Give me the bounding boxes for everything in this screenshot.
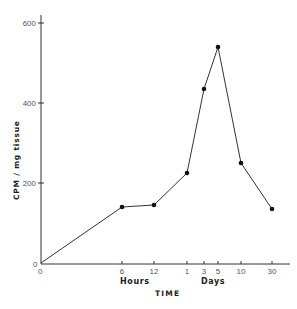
data-point [120,205,125,210]
data-point [202,87,207,92]
x-tick-label: 30 [268,267,277,276]
x-origin-label: 0 [38,267,43,276]
line-chart: 200400600 6121351030 0 0 Hours Days TIME… [0,0,297,309]
x-tick-label: 5 [216,267,221,276]
data-point [216,45,221,50]
hours-label: Hours [120,277,150,286]
days-label: Days [201,277,225,286]
data-points [120,45,275,212]
y-tick-label: 600 [23,19,37,28]
data-point [270,207,275,212]
data-point [185,171,190,176]
y-tick-label: 400 [23,99,37,108]
data-line [41,47,272,263]
y-axis-title: CPM / mg tissue [12,120,21,200]
x-tick-label: 12 [150,267,159,276]
x-ticks: 6121351030 [120,261,277,276]
x-tick-label: 3 [202,267,207,276]
x-tick-label: 6 [120,267,125,276]
data-point [239,161,244,166]
x-tick-label: 10 [237,267,246,276]
y-tick-label: 200 [23,179,37,188]
x-axis-title: TIME [155,289,180,298]
data-point [152,203,157,208]
x-tick-label: 1 [185,267,190,276]
